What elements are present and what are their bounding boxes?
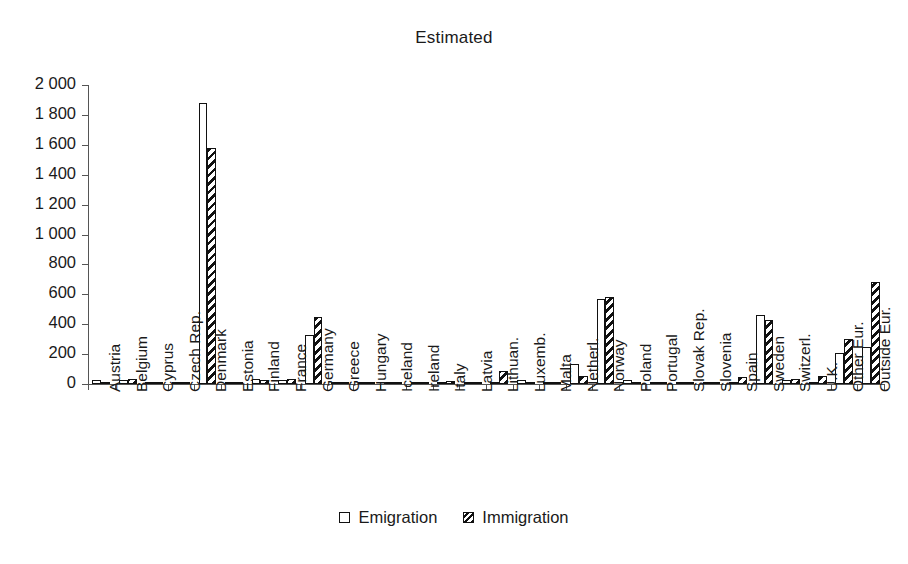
y-tick-label: 1 000 [0, 224, 76, 243]
x-axis-category-label: Luxemb. [532, 333, 548, 392]
x-axis-category-label: France [293, 344, 309, 392]
y-tick-label: 1 600 [0, 134, 76, 153]
y-tick-label: 400 [0, 313, 76, 332]
x-axis-category-label: Lithuan. [505, 337, 521, 392]
hatched-square-swatch-icon [463, 512, 474, 523]
legend-item-immigration: Immigration [463, 508, 568, 527]
x-axis-category-label: Hungary [373, 333, 389, 392]
x-axis-category-label: Malta [558, 354, 574, 392]
x-axis-category-label: Germany [320, 328, 336, 392]
x-tick-mark [88, 384, 89, 390]
x-axis-category-label: Poland [638, 344, 654, 392]
x-axis-category-label: Italy [452, 364, 468, 392]
x-axis-category-label: Greece [346, 341, 362, 392]
y-tick-label: 1 200 [0, 194, 76, 213]
x-axis-category-label: Outside Eur. [877, 307, 893, 392]
x-axis-category-label: Austria [107, 344, 123, 392]
y-tick-label: 200 [0, 343, 76, 362]
x-axis-category-label: Ireland [426, 345, 442, 392]
chart-figure: Estimated 02004006008001 0001 2001 4001 … [0, 0, 908, 564]
legend-label-emigration: Emigration [358, 508, 437, 527]
legend-label-immigration: Immigration [482, 508, 568, 527]
x-axis-category-label: Czech Rep. [187, 311, 203, 392]
y-tick-label: 600 [0, 283, 76, 302]
y-tick-label: 0 [0, 373, 76, 392]
x-axis-category-label: Spain [744, 352, 760, 392]
x-axis-category-label: Slovenia [718, 333, 734, 392]
x-axis-category-label: Other Eur. [850, 321, 866, 392]
x-axis-category-label: Latvia [479, 351, 495, 392]
x-axis-category-label: Netherl. [585, 338, 601, 392]
empty-square-swatch-icon [339, 512, 350, 523]
x-axis-category-label: Norway [611, 339, 627, 392]
x-axis-category-label: Cyprus [160, 343, 176, 392]
chart-legend: Emigration Immigration [0, 508, 908, 527]
y-tick-label: 2 000 [0, 74, 76, 93]
x-axis-category-label: Switzerl. [797, 333, 813, 392]
x-axis-category-label: Belgium [134, 336, 150, 392]
y-tick-label: 800 [0, 253, 76, 272]
legend-item-emigration: Emigration [339, 508, 437, 527]
plot-area [88, 85, 884, 384]
x-axis-category-label: Iceland [399, 342, 415, 392]
x-axis-category-label: U.K. [824, 362, 840, 392]
x-axis-category-label: Finland [266, 341, 282, 392]
bar-emigration [92, 380, 101, 384]
y-tick-label: 1 800 [0, 104, 76, 123]
x-axis-category-label: Slovak Rep. [691, 308, 707, 392]
x-axis-category-label: Sweden [771, 336, 787, 392]
x-axis-category-label: Portugal [664, 334, 680, 392]
y-tick-label: 1 400 [0, 164, 76, 183]
x-axis-category-label: Denmark [213, 329, 229, 392]
x-axis-category-label: Estonia [240, 340, 256, 392]
chart-title: Estimated [0, 28, 908, 48]
